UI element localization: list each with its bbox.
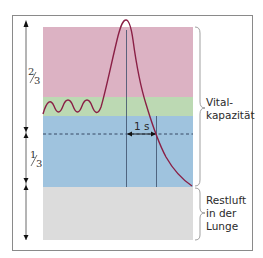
svg-text:3: 3 xyxy=(34,75,40,86)
residual-label-3: Lunge xyxy=(206,220,238,232)
vital-capacity-label-2: kapazität xyxy=(206,109,255,121)
lung-volume-diagram: 1 s 2 3 1 3 Vital- kapazität Restluft in… xyxy=(0,0,263,258)
band-residual-volume xyxy=(43,187,193,240)
time-marker-label: 1 s xyxy=(134,120,150,132)
vital-capacity-label-1: Vital- xyxy=(206,96,233,108)
residual-label-1: Restluft xyxy=(206,194,246,206)
band-tidal-volume xyxy=(43,97,193,116)
band-expiratory-reserve xyxy=(43,116,193,187)
svg-text:3: 3 xyxy=(36,158,42,169)
residual-label-2: in der xyxy=(206,207,237,219)
